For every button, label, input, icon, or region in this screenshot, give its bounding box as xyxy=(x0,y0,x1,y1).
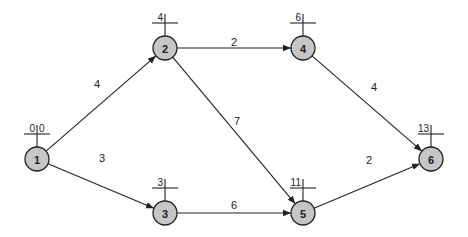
edge-5-6: 2 xyxy=(314,154,420,208)
node-label: 3 xyxy=(162,208,168,220)
edge-4-6: 4 xyxy=(312,56,422,151)
late-time-label: 0 xyxy=(39,123,45,134)
node-4: 4 xyxy=(291,36,315,60)
early-time-label: 0 xyxy=(29,123,35,134)
early-time-label: 13 xyxy=(418,123,430,134)
edge-weight-label: 2 xyxy=(366,154,372,166)
node-label: 4 xyxy=(300,43,307,55)
edge-weight-label: 4 xyxy=(371,81,377,93)
edge-weight-label: 2 xyxy=(231,36,237,48)
network-diagram: 4327642 004361113 123456 xyxy=(0,0,468,237)
edge-2-5: 7 xyxy=(173,57,296,204)
edge-weight-label: 3 xyxy=(99,152,105,164)
time-marker-6: 13 xyxy=(418,123,444,147)
edges-layer: 4327642 xyxy=(46,36,422,213)
time-marker-4: 6 xyxy=(290,12,316,36)
node-5: 5 xyxy=(291,201,315,225)
node-label: 6 xyxy=(428,154,434,166)
node-2: 2 xyxy=(153,36,177,60)
arrow-icon xyxy=(173,57,296,204)
edge-2-4: 2 xyxy=(177,36,291,48)
arrow-icon xyxy=(46,56,156,151)
early-time-label: 3 xyxy=(157,177,163,188)
edge-weight-label: 7 xyxy=(234,115,240,127)
edge-weight-label: 4 xyxy=(94,78,100,90)
node-label: 2 xyxy=(162,43,168,55)
early-time-label: 11 xyxy=(291,177,302,188)
arrow-icon xyxy=(314,164,420,209)
edge-1-3: 3 xyxy=(48,152,154,208)
node-6: 6 xyxy=(419,147,443,171)
arrow-icon xyxy=(48,164,154,209)
edge-weight-label: 6 xyxy=(231,199,237,211)
node-3: 3 xyxy=(153,201,177,225)
node-label: 1 xyxy=(34,154,40,166)
time-marker-3: 3 xyxy=(152,177,178,201)
early-time-label: 6 xyxy=(295,12,301,23)
time-marker-2: 4 xyxy=(152,12,178,36)
arrow-icon xyxy=(312,56,422,151)
edge-1-2: 4 xyxy=(46,56,156,151)
node-1: 1 xyxy=(25,147,49,171)
early-time-label: 4 xyxy=(157,12,163,23)
time-marker-5: 11 xyxy=(290,177,316,201)
node-label: 5 xyxy=(300,208,306,220)
time-marker-1: 00 xyxy=(24,123,50,147)
edge-3-5: 6 xyxy=(177,199,291,213)
